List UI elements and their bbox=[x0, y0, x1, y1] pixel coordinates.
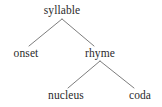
edge-rhyme-nucleus bbox=[68, 61, 100, 88]
edge-rhyme-coda bbox=[100, 61, 134, 88]
edge-syllable-onset bbox=[29, 19, 62, 46]
tree-node-nucleus: nucleus bbox=[48, 89, 84, 101]
tree-node-onset: onset bbox=[14, 47, 39, 59]
tree-node-rhyme: rhyme bbox=[85, 47, 115, 59]
tree-node-syllable: syllable bbox=[44, 4, 81, 16]
edge-syllable-rhyme bbox=[62, 19, 94, 46]
tree-node-coda: coda bbox=[129, 89, 151, 101]
syllable-tree-diagram: syllable onset rhyme nucleus coda bbox=[0, 0, 162, 107]
